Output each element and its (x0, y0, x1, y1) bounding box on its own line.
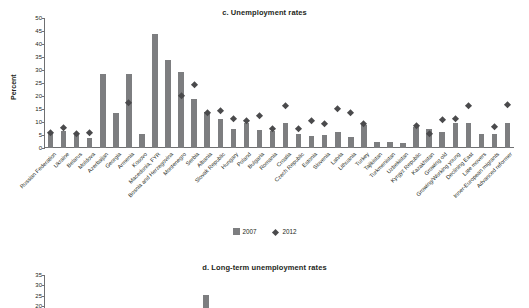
bar (374, 142, 380, 148)
y-tick-mark (42, 275, 45, 276)
bar (309, 136, 315, 148)
bar (244, 123, 250, 148)
y-tick-mark (42, 306, 45, 307)
legend-label-2012: 2012 (282, 228, 296, 235)
diamond-marker (504, 101, 511, 108)
bar (126, 74, 132, 148)
panel-c-title: c. Unemployment rates (0, 8, 529, 17)
bar (152, 34, 158, 148)
y-tick-mark (42, 285, 45, 286)
diamond-marker (491, 123, 498, 130)
legend-item-2012: 2012 (272, 228, 296, 235)
y-tick-label: 30 (35, 282, 42, 288)
bar (387, 142, 393, 148)
bar (257, 130, 263, 148)
legend-bar-swatch-icon (233, 228, 240, 235)
y-tick-label: 15 (35, 106, 42, 112)
bar (505, 123, 511, 148)
bar (165, 60, 171, 148)
bar (87, 138, 93, 148)
diamond-marker (465, 102, 472, 109)
y-tick-label: 30 (35, 67, 42, 73)
bar (335, 132, 341, 148)
y-tick-label: 40 (35, 41, 42, 47)
bar (492, 134, 498, 148)
bar (178, 72, 184, 148)
bar (466, 123, 472, 148)
diamond-marker (256, 112, 263, 119)
bar (100, 74, 106, 148)
bar (400, 143, 406, 148)
y-tick-label: 25 (35, 80, 42, 86)
y-tick-label: 35 (35, 54, 42, 60)
legend-item-2007: 2007 (233, 228, 257, 235)
y-tick-label: 20 (35, 303, 42, 308)
bar (61, 131, 67, 148)
diamond-marker (230, 115, 237, 122)
panel-d-title: d. Long-term unemployment rates (0, 263, 529, 272)
bar (191, 99, 197, 148)
y-tick-mark (42, 296, 45, 297)
bar (348, 137, 354, 148)
bar (204, 112, 210, 148)
y-tick-label: 35 (35, 272, 42, 278)
diamond-marker (308, 117, 315, 124)
bar (139, 134, 145, 148)
diamond-marker (86, 129, 93, 136)
bar (270, 131, 276, 148)
y-tick-label: 50 (35, 15, 42, 21)
bar (479, 134, 485, 148)
diamond-marker (60, 124, 67, 131)
panel-c-y-axis-label: Percent (10, 74, 17, 100)
panel-c-plot-area (44, 18, 514, 148)
bar (203, 295, 209, 308)
y-tick-label: 10 (35, 119, 42, 125)
figure-container: c. Unemployment rates Percent 0510152025… (0, 0, 529, 308)
bar (283, 123, 289, 148)
bar (322, 135, 328, 148)
bar (361, 125, 367, 148)
diamond-marker (321, 121, 328, 128)
diamond-marker (347, 109, 354, 116)
bar (218, 119, 224, 148)
bar (439, 132, 445, 148)
y-tick-label: 45 (35, 28, 42, 34)
diamond-marker (282, 103, 289, 110)
legend-label-2007: 2007 (243, 228, 257, 235)
diamond-marker (295, 126, 302, 133)
bar (413, 127, 419, 148)
bar (296, 134, 302, 148)
bar (113, 113, 119, 148)
panel-d-axes: 20253035 (44, 275, 514, 308)
legend: 2007 2012 (0, 228, 529, 235)
diamond-marker (439, 116, 446, 123)
y-tick-mark (42, 148, 45, 149)
y-tick-label: 25 (35, 293, 42, 299)
diamond-marker (191, 82, 198, 89)
bar (453, 123, 459, 148)
diamond-marker (334, 105, 341, 112)
legend-diamond-swatch-icon (272, 229, 279, 236)
bar (231, 129, 237, 148)
diamond-marker (452, 115, 459, 122)
diamond-marker (217, 107, 224, 114)
y-tick-label: 20 (35, 93, 42, 99)
